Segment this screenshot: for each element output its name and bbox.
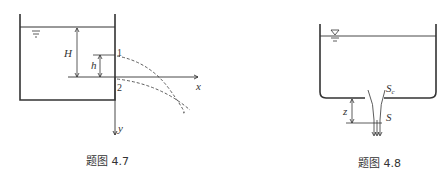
figure-4-7 bbox=[20, 14, 198, 135]
label-x: x bbox=[195, 80, 201, 92]
caption-4-7: 题图 4.7 bbox=[86, 152, 129, 168]
label-H: H bbox=[63, 47, 73, 59]
label-S: S bbox=[386, 111, 392, 123]
tank-wall bbox=[320, 24, 436, 98]
caption-4-8: 题图 4.8 bbox=[358, 154, 401, 170]
label-point-1: 1 bbox=[117, 47, 122, 58]
figure-4-8 bbox=[320, 24, 436, 136]
jet-1 bbox=[117, 56, 184, 113]
label-h: h bbox=[91, 59, 97, 71]
label-z: z bbox=[342, 105, 348, 117]
jet-2 bbox=[117, 79, 190, 110]
diagram-canvas: H h x y 1 2 z Sc S bbox=[0, 0, 445, 177]
label-Sc: Sc bbox=[386, 82, 396, 96]
label-point-2: 2 bbox=[117, 82, 122, 93]
label-y: y bbox=[117, 122, 123, 134]
